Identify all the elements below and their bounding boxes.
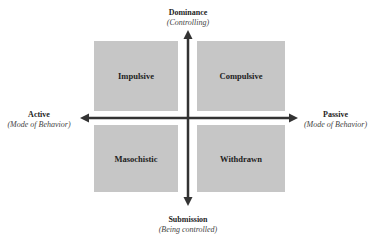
axis-subtitle: (Being controlled) bbox=[138, 225, 238, 235]
axis-label-right: Passive (Mode of Behavior) bbox=[296, 110, 375, 130]
axis-label-bottom: Submission (Being controlled) bbox=[138, 215, 238, 235]
axis-title: Passive bbox=[296, 110, 375, 120]
axis-title: Dominance bbox=[138, 8, 238, 18]
axis-subtitle: (Mode of Behavior) bbox=[0, 120, 78, 130]
axis-title: Active bbox=[0, 110, 78, 120]
axis-label-top: Dominance (Controlling) bbox=[138, 8, 238, 28]
axis-subtitle: (Mode of Behavior) bbox=[296, 120, 375, 130]
axis-label-left: Active (Mode of Behavior) bbox=[0, 110, 78, 130]
axis-subtitle: (Controlling) bbox=[138, 18, 238, 28]
axis-title: Submission bbox=[138, 215, 238, 225]
